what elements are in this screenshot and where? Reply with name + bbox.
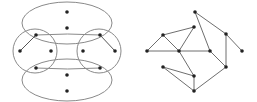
graph-node-G <box>224 32 228 36</box>
bottom-ellipse <box>22 59 112 101</box>
hypergraph-node <box>81 49 85 53</box>
graph-node-D <box>145 49 149 53</box>
hypergraph-node <box>98 66 102 70</box>
graph-edge <box>163 67 194 91</box>
top-ellipse <box>22 2 112 44</box>
hypergraph-node <box>65 26 69 30</box>
graph-edge <box>226 34 242 51</box>
upper-band <box>36 34 100 35</box>
hypergraph-node <box>98 33 102 37</box>
graph-node-F <box>208 49 212 53</box>
graph-node-A <box>193 10 197 14</box>
graph-edge <box>163 35 179 51</box>
graph-edge <box>147 35 163 51</box>
hypergraph-node <box>34 33 38 37</box>
lower-band <box>36 68 100 69</box>
graph-edge <box>194 67 226 91</box>
hypergraph-node <box>34 66 38 70</box>
graph-node-C <box>161 33 165 37</box>
hypergraph-edge <box>20 35 36 51</box>
hypergraph-node <box>113 49 117 53</box>
graph-edge <box>210 51 226 67</box>
hypergraph-node <box>18 49 22 53</box>
graph-node-B <box>192 25 196 29</box>
graph-diagram <box>145 10 244 93</box>
hypergraph-diagram <box>13 2 121 101</box>
hypergraph-node <box>65 73 69 77</box>
graph-node-E <box>177 49 181 53</box>
graph-node-I <box>224 65 228 69</box>
hypergraph-edge <box>100 35 115 51</box>
hypergraph-node <box>65 10 69 14</box>
graph-node-L <box>192 89 196 93</box>
hypergraph-node <box>49 49 53 53</box>
hypergraph-node <box>65 89 69 93</box>
graph-node-K <box>192 74 196 78</box>
graph-node-J <box>161 65 165 69</box>
graph-node-H <box>240 49 244 53</box>
diagram-canvas <box>0 0 257 102</box>
